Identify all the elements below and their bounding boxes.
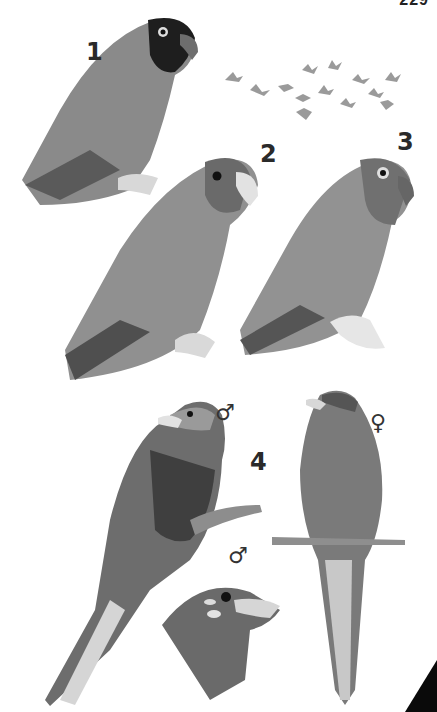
bird-4-female-illustration bbox=[272, 391, 405, 705]
bird-3-illustration bbox=[240, 158, 414, 355]
figure-label-4: 4 bbox=[250, 448, 267, 476]
figure-label-1: 1 bbox=[86, 38, 103, 66]
figure-label-2: 2 bbox=[260, 140, 277, 168]
bird-1-illustration bbox=[22, 18, 198, 205]
male-symbol-icon: ♂ bbox=[215, 400, 235, 425]
male-head-symbol-icon: ♂ bbox=[228, 543, 248, 568]
flock-illustration bbox=[225, 60, 401, 120]
female-symbol-icon: ♀ bbox=[370, 410, 386, 435]
bird-4-male-head-illustration bbox=[162, 588, 280, 700]
illustration-plate bbox=[0, 0, 437, 712]
page-corner-tab bbox=[405, 660, 437, 712]
figure-label-3: 3 bbox=[397, 128, 414, 156]
